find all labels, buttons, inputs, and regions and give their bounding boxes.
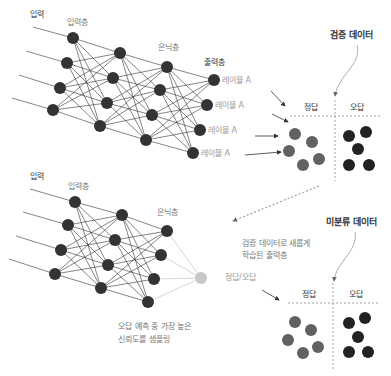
bottom-network <box>9 189 167 302</box>
unlabeled-correct-label: 정답 <box>302 290 316 300</box>
top-arrows <box>245 91 288 155</box>
output-label-2: 레이블 A <box>215 101 244 111</box>
bottom-input-label: 입력 <box>30 172 44 182</box>
top-network-nodes <box>47 32 220 159</box>
output-label-4: 레이블 A <box>201 149 230 159</box>
sampling-note-line1: 오답 예측 중 가장 높은 <box>118 322 191 332</box>
output-label-3: 레이블 A <box>208 126 237 136</box>
sampling-note-line2: 신뢰도를 샘플링 <box>118 335 170 345</box>
top-input-layer-label: 입력층 <box>67 18 88 28</box>
top-hidden-layer-label: 은닉층 <box>158 43 179 53</box>
bottom-output-label: 정답/오답 <box>225 273 256 283</box>
new-output-note-line1: 검증 데이터로 새롭게 <box>242 239 310 249</box>
new-output-node <box>195 272 207 284</box>
validation-correct-label: 정답 <box>304 103 318 113</box>
validation-data-title: 검증 데이터 <box>330 30 373 40</box>
unlabeled-wrong-label: 오답 <box>349 290 363 300</box>
bottom-input-layer-label: 입력층 <box>68 182 89 192</box>
output-label-1: 레이블 A <box>222 76 251 86</box>
bottom-arrow <box>262 290 279 300</box>
transition-arrow <box>233 186 319 221</box>
bottom-output-edges <box>148 231 201 302</box>
top-output-layer-label: 출력층 <box>204 58 225 68</box>
unlabeled-data-title: 미분류 데이터 <box>326 217 377 227</box>
validation-wrong-label: 오답 <box>350 103 364 113</box>
bottom-hidden-layer-label: 은닉층 <box>157 208 178 218</box>
new-output-note-line2: 학습된 출력층 <box>242 251 287 261</box>
top-network <box>12 27 214 153</box>
unlabeled-panel-graphic <box>282 232 380 370</box>
active-learning-diagram <box>0 0 391 376</box>
top-input-label: 입력 <box>30 10 44 20</box>
validation-panel-graphic <box>283 45 380 181</box>
